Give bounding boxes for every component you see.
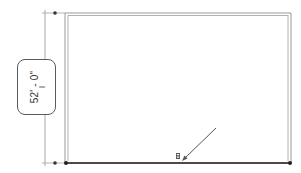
wall-endpoint-grip-left[interactable] bbox=[64, 161, 68, 165]
text-cursor-icon: I bbox=[37, 86, 47, 89]
flip-arrows-icon[interactable] bbox=[176, 153, 180, 159]
dimension-value-box[interactable]: 52' - 0" I bbox=[17, 59, 56, 115]
left-wall[interactable] bbox=[65, 13, 68, 163]
right-wall[interactable] bbox=[288, 13, 291, 163]
top-wall[interactable] bbox=[65, 13, 291, 16]
dimension-grip-bottom[interactable] bbox=[53, 161, 57, 165]
dimension-grip-top[interactable] bbox=[53, 11, 57, 15]
wall-endpoint-grip-right[interactable] bbox=[288, 161, 292, 165]
arrow-pointer-icon bbox=[182, 128, 216, 161]
